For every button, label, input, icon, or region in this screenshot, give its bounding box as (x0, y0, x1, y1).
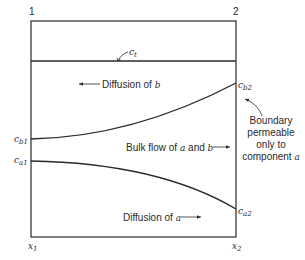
position-2-label: 2 (233, 6, 239, 17)
x1-label: x1 (28, 241, 38, 255)
ca1-label: ca1 (14, 155, 28, 169)
component-b-concentration-curve (31, 83, 236, 139)
diffusion-b-label: Diffusion of b (102, 79, 160, 91)
ct-label: ct (129, 47, 137, 61)
boundary-note: Boundary permeable only to component a (238, 115, 304, 163)
component-a-concentration-curve (31, 161, 236, 209)
ca2-label: ca2 (238, 206, 252, 220)
boundary-pointer-arrow (245, 99, 262, 116)
cb1-label: cb1 (14, 134, 28, 148)
cb2-label: cb2 (238, 80, 252, 94)
position-1-label: 1 (29, 6, 35, 17)
x2-label: x2 (232, 241, 242, 255)
diffusion-a-label: Diffusion of a (123, 212, 181, 224)
bulk-flow-label: Bulk flow of a and b (126, 142, 213, 154)
